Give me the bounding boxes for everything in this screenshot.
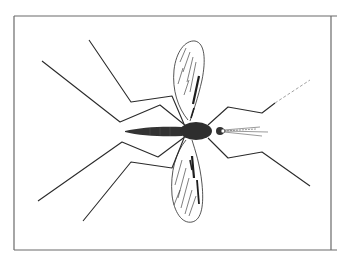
upper-wing xyxy=(174,41,205,121)
body xyxy=(125,122,225,140)
thorax xyxy=(180,122,212,140)
lower-wing xyxy=(172,140,203,222)
mosquito-illustration xyxy=(0,0,337,257)
abdomen xyxy=(125,127,182,137)
antennae xyxy=(224,127,268,136)
